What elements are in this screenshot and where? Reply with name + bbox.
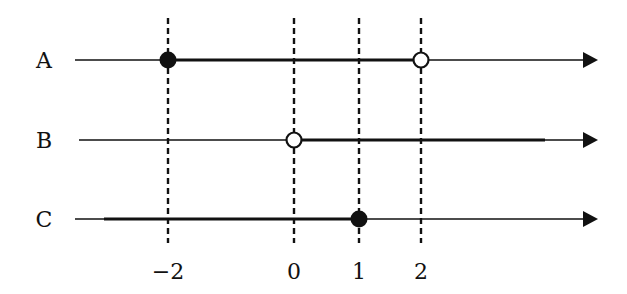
closed-endpoint-icon bbox=[160, 52, 177, 69]
open-endpoint-icon bbox=[414, 53, 429, 68]
tick-label: 2 bbox=[414, 259, 428, 284]
row-label: C bbox=[36, 207, 53, 232]
tick-label: 0 bbox=[287, 259, 301, 284]
arrow-head-icon bbox=[583, 52, 598, 68]
tick-label: 1 bbox=[352, 259, 366, 284]
arrow-head-icon bbox=[583, 211, 598, 227]
number-line-diagram: −2012ABC bbox=[0, 0, 627, 294]
row-label: A bbox=[35, 48, 53, 73]
row-label: B bbox=[36, 128, 52, 153]
closed-endpoint-icon bbox=[351, 211, 368, 228]
arrow-head-icon bbox=[583, 132, 598, 148]
tick-label: −2 bbox=[152, 259, 184, 284]
open-endpoint-icon bbox=[287, 133, 302, 148]
